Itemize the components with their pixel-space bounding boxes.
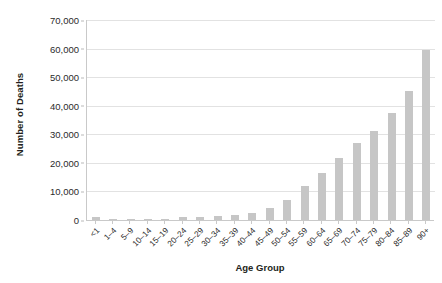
bar	[370, 131, 378, 220]
y-axis-tick-labels: 010,00020,00030,00040,00050,00060,00070,…	[30, 14, 84, 226]
tick-mark	[164, 221, 165, 224]
x-axis-title: Age Group	[86, 262, 434, 273]
tick-mark	[356, 221, 357, 224]
y-axis-tick-label: 40,000	[50, 100, 79, 111]
tick-mark	[269, 221, 270, 224]
bar	[405, 91, 413, 220]
y-axis-tick-label: 60,000	[50, 43, 79, 54]
x-axis-tick-label: <1	[88, 226, 101, 239]
tick-mark	[251, 221, 252, 224]
tick-mark	[182, 221, 183, 224]
x-axis-tick-labels: <11–45–910–1415–1920–2425–2930–3435–3940…	[86, 221, 434, 261]
bar	[388, 113, 396, 220]
x-axis-tick: 1–4	[103, 221, 120, 261]
tick-mark	[373, 221, 374, 224]
tick-mark	[129, 221, 130, 224]
y-axis-title-label: Number of Deaths	[15, 72, 26, 155]
tick-mark	[408, 221, 409, 224]
bar	[353, 143, 361, 220]
tick-mark	[147, 221, 148, 224]
x-axis-tick-label: 90+	[415, 226, 431, 242]
bars-series	[87, 20, 435, 220]
x-axis-tick: 85–89	[399, 221, 416, 261]
bar-chart-figure: Number of Deaths 010,00020,00030,00040,0…	[0, 0, 442, 283]
bar	[318, 173, 326, 220]
tick-mark	[338, 221, 339, 224]
bar	[283, 200, 291, 220]
y-axis-tick-label: 10,000	[50, 186, 79, 197]
tick-mark	[425, 221, 426, 224]
y-axis-tick-label: 20,000	[50, 157, 79, 168]
bar	[266, 208, 274, 220]
x-axis-tick: 90+	[417, 221, 434, 261]
x-axis-tick-label: 1–4	[102, 226, 118, 242]
plot-area	[86, 20, 435, 220]
bar	[422, 50, 430, 220]
tick-mark	[303, 221, 304, 224]
tick-mark	[390, 221, 391, 224]
tick-mark	[112, 221, 113, 224]
tick-mark	[95, 221, 96, 224]
bar	[301, 186, 309, 220]
tick-mark	[234, 221, 235, 224]
bar	[248, 213, 256, 220]
bar	[335, 158, 343, 220]
x-axis-tick: <1	[86, 221, 103, 261]
y-axis-tick-label: 70,000	[50, 15, 79, 26]
tick-mark	[216, 221, 217, 224]
y-axis-tick-label: 0	[74, 215, 79, 226]
y-axis-tick-label: 30,000	[50, 129, 79, 140]
y-axis-tick-label: 50,000	[50, 72, 79, 83]
tick-mark	[321, 221, 322, 224]
tick-mark	[199, 221, 200, 224]
tick-mark	[286, 221, 287, 224]
